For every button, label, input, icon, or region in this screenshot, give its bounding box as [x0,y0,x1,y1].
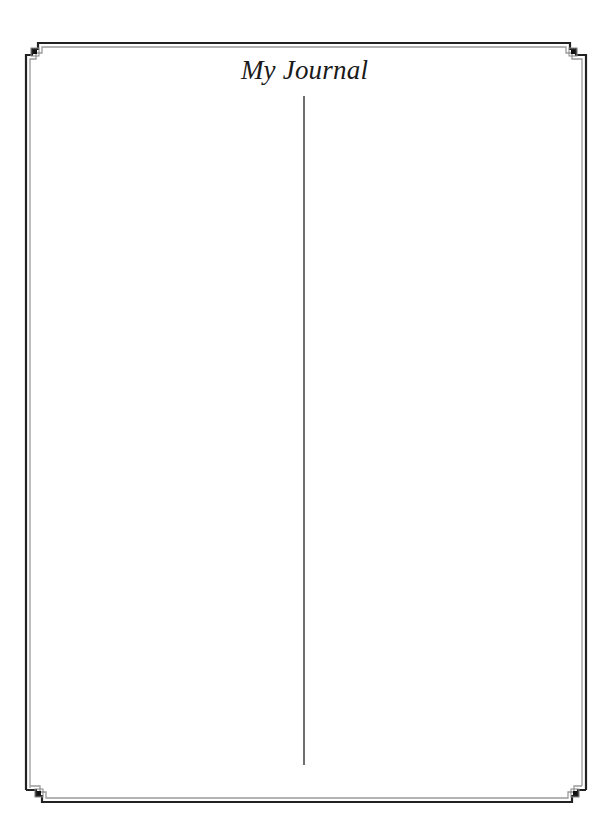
column-divider [303,96,305,765]
right-column[interactable] [310,100,576,780]
left-column[interactable] [34,100,298,780]
page-title: My Journal [0,55,609,86]
journal-page: My Journal [0,0,609,828]
